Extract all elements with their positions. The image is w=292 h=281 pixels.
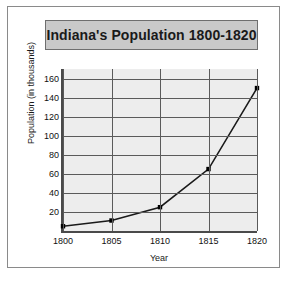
y-tick-label: 40: [49, 188, 59, 198]
y-axis-label: Population (in thousands): [26, 13, 42, 173]
y-tick-label: 100: [44, 131, 59, 141]
chart-title-box: Indiana's Population 1800-1820: [45, 20, 258, 50]
plot-area: 2040608010012014016018001805181018151820: [61, 69, 257, 233]
y-tick-label: 120: [44, 112, 59, 122]
x-axis-label: Year: [61, 253, 257, 263]
x-gridline: [160, 69, 161, 231]
y-tick-label: 160: [44, 74, 59, 84]
x-gridline: [257, 69, 258, 231]
x-gridline: [63, 69, 64, 231]
y-tick-label: 80: [49, 150, 59, 160]
page-title: Indiana's Population 1800-1820: [46, 27, 256, 43]
x-tick-label: 1800: [53, 236, 73, 246]
y-tick-label: 20: [49, 207, 59, 217]
chart-figure: Indiana's Population 1800-1820 Populatio…: [7, 6, 280, 268]
x-gridline: [112, 69, 113, 231]
plot-inner: 2040608010012014016018001805181018151820: [63, 69, 257, 231]
x-tick-label: 1810: [150, 236, 170, 246]
x-tick-label: 1820: [247, 236, 267, 246]
x-gridline: [209, 69, 210, 231]
x-tick-label: 1815: [198, 236, 218, 246]
x-tick-label: 1805: [101, 236, 121, 246]
y-tick-label: 60: [49, 169, 59, 179]
y-tick-label: 140: [44, 93, 59, 103]
